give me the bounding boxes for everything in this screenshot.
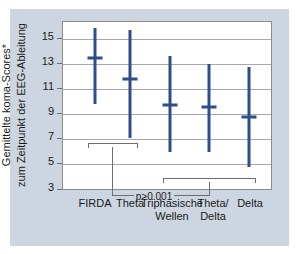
axis-layer: 15 13 11 9 7 5 3 bbox=[0, 0, 297, 254]
figure: 15 13 11 9 7 5 3 bbox=[0, 0, 297, 254]
ytick-mark-7 bbox=[57, 138, 62, 139]
errorbar-mean-delta bbox=[242, 116, 257, 119]
xtick-label-theta-delta-line1: Theta/ bbox=[197, 197, 228, 209]
errorbar-mean-firda bbox=[88, 57, 103, 60]
y-axis-label-line2: zum Zeitpunkt der EEG-Ableitung bbox=[14, 5, 29, 205]
y-axis-label-line1: Gemittelte koma-Scores* bbox=[0, 5, 14, 205]
ytick-label-15-text: 15 bbox=[42, 30, 54, 42]
xtick-label-firda-line1: FIRDA bbox=[79, 197, 112, 209]
errorbar-mean-theta bbox=[123, 78, 138, 81]
errorbar-line-theta bbox=[129, 30, 132, 138]
ytick-label-9-text: 9 bbox=[48, 105, 54, 117]
ytick-mark-15 bbox=[57, 38, 62, 39]
ytick-label-11-text: 11 bbox=[43, 80, 54, 92]
xtick-label-theta-delta: Theta/ Delta bbox=[197, 197, 228, 223]
y-axis-label: Gemittelte koma-Scores* zum Zeitpunkt de… bbox=[0, 5, 29, 205]
ytick-mark-5 bbox=[57, 163, 62, 164]
ytick-mark-13 bbox=[57, 63, 62, 64]
xtick-label-triphasische-wellen-line2: Wellen bbox=[155, 210, 188, 222]
xtick-label-triphasische-wellen-line1: Triphasische bbox=[141, 197, 203, 209]
errorbar-mean-triphasische-wellen bbox=[163, 104, 178, 107]
ytick-label-5-text: 5 bbox=[48, 155, 54, 167]
significance-bracket-left bbox=[88, 143, 138, 148]
xtick-label-theta: Theta bbox=[116, 197, 144, 210]
ytick-label-3-text: 3 bbox=[48, 181, 54, 193]
ytick-mark-3 bbox=[57, 189, 62, 190]
errorbar-mean-theta-delta bbox=[202, 106, 217, 109]
significance-baseline-left bbox=[112, 195, 134, 196]
errorbar-line-firda bbox=[94, 28, 97, 104]
xtick-label-triphasische-wellen: Triphasische Wellen bbox=[141, 197, 203, 223]
significance-baseline-right bbox=[174, 195, 210, 196]
xtick-label-firda: FIRDA bbox=[79, 197, 112, 210]
xtick-label-theta-line1: Theta bbox=[116, 197, 144, 209]
ytick-mark-9 bbox=[57, 113, 62, 114]
significance-connector-right bbox=[209, 182, 210, 196]
xtick-label-delta-line1: Delta bbox=[237, 197, 263, 209]
ytick-label-7-text: 7 bbox=[48, 130, 54, 142]
ytick-label-13-text: 13 bbox=[42, 55, 54, 67]
significance-connector-left bbox=[112, 147, 113, 196]
xtick-label-theta-delta-line2: Delta bbox=[200, 210, 226, 222]
xtick-label-delta: Delta bbox=[237, 197, 263, 210]
ytick-mark-11 bbox=[57, 88, 62, 89]
